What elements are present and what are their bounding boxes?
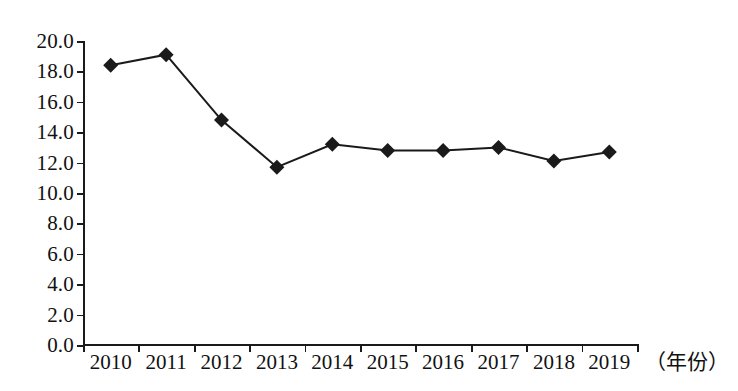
y-axis-tick-label: 12.0 [36,152,74,173]
x-axis-tick-label: 2013 [256,352,298,373]
y-axis-tick-label: 6.0 [47,243,74,264]
series-plot [0,0,738,391]
x-axis-tick-label: 2014 [311,352,353,373]
x-axis-label: （年份） [645,352,729,373]
y-axis-tick-label: 0.0 [47,335,74,356]
y-axis-tick-label: 20.0 [36,31,74,52]
series-line [111,55,610,167]
y-axis-tick-mark [77,284,84,286]
x-axis-tick-mark [637,344,639,352]
x-axis-tick-label: 2011 [145,352,186,373]
x-axis-tick-mark [471,344,473,352]
y-axis-tick-mark [77,102,84,104]
y-axis-tick-mark [77,71,84,73]
x-axis-tick-mark [305,344,307,352]
data-point-marker [269,160,284,175]
x-axis-tick-label: 2018 [533,352,575,373]
y-axis-tick-mark [77,315,84,317]
y-axis-tick-mark [77,163,84,165]
data-point-marker [546,154,561,169]
y-axis-tick-mark [77,193,84,195]
x-axis-tick-mark [194,344,196,352]
x-axis-tick-label: 2019 [588,352,630,373]
data-point-marker [380,143,395,158]
x-axis-tick-mark [582,344,584,352]
data-point-marker [602,144,617,159]
line-chart: 20.018.016.014.012.010.08.06.04.02.00.0 … [0,0,738,391]
y-axis-tick-label: 8.0 [47,213,74,234]
data-point-marker [436,143,451,158]
x-axis-tick-label: 2012 [201,352,243,373]
y-axis-tick-label: 4.0 [47,274,74,295]
x-axis-tick-mark [138,344,140,352]
data-point-marker [159,47,174,62]
y-axis-tick-label: 10.0 [36,183,74,204]
y-axis-tick-label: 18.0 [36,61,74,82]
x-axis-tick-label: 2015 [367,352,409,373]
y-axis-tick-label: 2.0 [47,304,74,325]
x-axis-tick-mark [526,344,528,352]
data-point-marker [103,58,118,73]
x-axis-tick-mark [415,344,417,352]
y-axis-tick-mark [77,132,84,134]
y-axis-tick-mark [77,41,84,43]
x-axis-tick-mark [360,344,362,352]
y-axis-tick-mark [77,223,84,225]
x-axis-tick-label: 2016 [422,352,464,373]
x-axis-tick-label: 2010 [90,352,132,373]
data-point-marker [491,140,506,155]
x-axis-tick-label: 2017 [478,352,520,373]
y-axis-tick-mark [77,254,84,256]
x-axis-tick-mark [83,344,85,352]
x-axis-tick-mark [249,344,251,352]
data-point-marker [214,113,229,128]
y-axis-tick-label: 16.0 [36,91,74,112]
data-point-marker [325,137,340,152]
y-axis-tick-label: 14.0 [36,122,74,143]
